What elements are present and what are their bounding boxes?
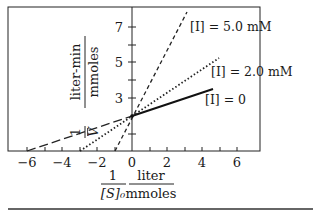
y-tick-label: 5 xyxy=(115,55,123,70)
series-line-I5mM xyxy=(115,12,187,151)
annotation-I-0: [I] = 0 xyxy=(205,92,246,107)
x-tick-label: −2 xyxy=(87,155,106,170)
x-tick-label: −4 xyxy=(52,155,71,170)
svg-text:1: 1 xyxy=(109,168,117,183)
svg-text:1: 1 xyxy=(68,128,83,136)
svg-text:mmoles: mmoles xyxy=(125,186,176,201)
x-tick-label: 4 xyxy=(198,155,206,170)
svg-text:[S]₀: [S]₀ xyxy=(101,186,126,201)
y-tick-label: 7 xyxy=(115,20,123,35)
y-intercept-point xyxy=(130,114,134,118)
annotation-I-5mM: [I] = 5.0 mM xyxy=(190,19,272,34)
svg-text:mmoles: mmoles xyxy=(86,46,101,97)
x-axis-label: 1 [S]₀ liter mmoles xyxy=(101,168,177,201)
svg-text:liter-min: liter-min xyxy=(68,43,83,100)
x-tick-label: −6 xyxy=(17,155,36,170)
svg-text:liter: liter xyxy=(137,168,165,183)
x-tick-label: 0 xyxy=(128,155,136,170)
series-line-I0 xyxy=(132,89,213,116)
y-axis-label: 1 V liter-min mmoles xyxy=(68,36,101,138)
svg-text:V: V xyxy=(86,126,101,137)
lineweaver-burk-plot: 7 5 3 −6 −4 −2 0 2 4 6 [I] = 5.0 mM [I] … xyxy=(0,0,313,212)
annotation-I-2mM: [I] = 2.0 mM xyxy=(211,64,293,79)
y-tick-label: 3 xyxy=(115,91,123,106)
x-tick-label: 6 xyxy=(233,155,241,170)
